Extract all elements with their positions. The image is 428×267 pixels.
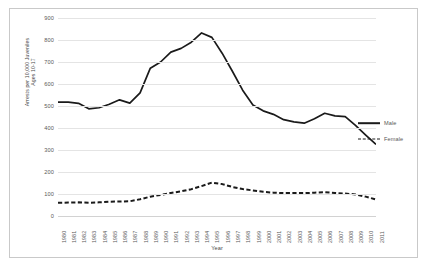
- y-tick-label-200: 200: [28, 169, 54, 175]
- x-tick-label-2010: 2010: [368, 215, 374, 243]
- x-tick-label-1992: 1992: [184, 215, 190, 243]
- y-tick-label-800: 800: [28, 37, 54, 43]
- x-tick-label-2006: 2006: [327, 215, 333, 243]
- y-tick-label-700: 700: [28, 59, 54, 65]
- x-tick-label-2003: 2003: [297, 215, 303, 243]
- gridline-100: [58, 194, 376, 195]
- gridline-800: [58, 40, 376, 41]
- x-tick-label-2009: 2009: [358, 215, 364, 243]
- gridline-300: [58, 150, 376, 151]
- plot-area: [58, 18, 376, 216]
- gridline-500: [58, 106, 376, 107]
- chart-legend: MaleFemale: [358, 115, 416, 147]
- x-tick-label-1996: 1996: [225, 215, 231, 243]
- y-tick-label-400: 400: [28, 125, 54, 131]
- x-tick-label-2011: 2011: [379, 215, 385, 243]
- y-tick-label-500: 500: [28, 103, 54, 109]
- x-tick-label-1994: 1994: [204, 215, 210, 243]
- gridline-200: [58, 172, 376, 173]
- y-tick-label-0: 0: [28, 213, 54, 219]
- x-tick-label-1998: 1998: [245, 215, 251, 243]
- x-axis-title: Year: [58, 245, 376, 251]
- gridline-900: [58, 18, 376, 19]
- gridline-600: [58, 84, 376, 85]
- x-tick-label-1984: 1984: [102, 215, 108, 243]
- x-tick-label-2001: 2001: [276, 215, 282, 243]
- x-tick-label-2008: 2008: [348, 215, 354, 243]
- x-tick-label-1982: 1982: [81, 215, 87, 243]
- x-tick-label-2002: 2002: [286, 215, 292, 243]
- legend-entry-male[interactable]: Male: [358, 115, 416, 131]
- x-tick-label-1988: 1988: [143, 215, 149, 243]
- gridlines: [58, 18, 376, 216]
- legend-swatch-female-icon: [358, 136, 380, 142]
- x-tick-label-2000: 2000: [266, 215, 272, 243]
- x-tick-label-1985: 1985: [112, 215, 118, 243]
- legend-swatch-male-icon: [358, 120, 380, 126]
- x-tick-label-2005: 2005: [317, 215, 323, 243]
- x-tick-label-1993: 1993: [194, 215, 200, 243]
- x-tick-label-1983: 1983: [91, 215, 97, 243]
- y-axis-tick-labels: 0100200300400500600700800900: [28, 18, 54, 216]
- x-tick-label-1987: 1987: [132, 215, 138, 243]
- x-tick-label-1989: 1989: [153, 215, 159, 243]
- y-tick-label-600: 600: [28, 81, 54, 87]
- y-tick-label-100: 100: [28, 191, 54, 197]
- x-tick-label-1997: 1997: [235, 215, 241, 243]
- x-tick-label-1999: 1999: [256, 215, 262, 243]
- x-tick-label-1990: 1990: [163, 215, 169, 243]
- x-tick-label-1981: 1981: [71, 215, 77, 243]
- y-tick-label-300: 300: [28, 147, 54, 153]
- chart-figure: Arrests per 10,000 Juveniles Ages 10-17 …: [9, 8, 418, 258]
- x-tick-label-2007: 2007: [338, 215, 344, 243]
- gridline-400: [58, 128, 376, 129]
- x-tick-label-1980: 1980: [61, 215, 67, 243]
- legend-label-female: Female: [384, 136, 403, 142]
- x-tick-label-1991: 1991: [173, 215, 179, 243]
- gridline-700: [58, 62, 376, 63]
- x-tick-label-2004: 2004: [307, 215, 313, 243]
- x-axis-tick-labels: 1980198119821983198419851986198719881989…: [58, 217, 376, 247]
- legend-entry-female[interactable]: Female: [358, 131, 416, 147]
- x-tick-label-1995: 1995: [214, 215, 220, 243]
- x-tick-label-1986: 1986: [122, 215, 128, 243]
- y-tick-label-900: 900: [28, 15, 54, 21]
- legend-label-male: Male: [384, 120, 397, 126]
